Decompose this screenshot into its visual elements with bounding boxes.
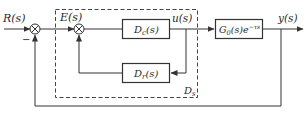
error-label: E(s) xyxy=(59,11,82,24)
input-label: R(s) xyxy=(2,12,26,25)
summing-junction-outer xyxy=(30,24,40,34)
summing-junction-inner xyxy=(74,24,84,34)
group-label: Ds xyxy=(183,85,196,98)
control-block-diagram: R(s) − E(s) u(s) y(s) Dc(s) Dr(s) G0(s)e… xyxy=(0,0,308,114)
minus-sign: − xyxy=(22,34,30,45)
control-label: u(s) xyxy=(172,12,192,24)
output-label: y(s) xyxy=(277,12,298,24)
inner-feedback-branch xyxy=(171,29,186,73)
inner-feedback-return xyxy=(79,35,122,73)
